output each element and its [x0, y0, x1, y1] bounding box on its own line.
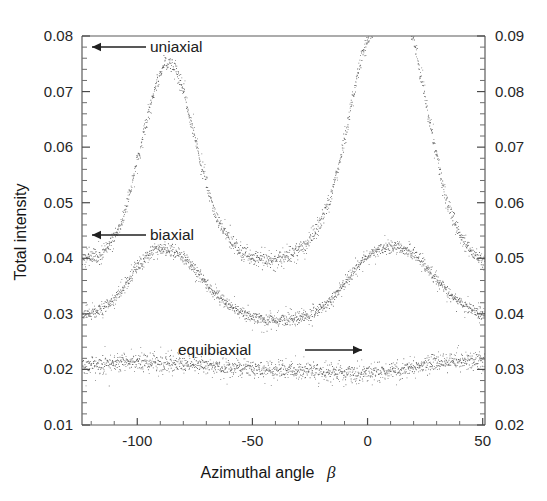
y-right-tick-label: 0.04	[495, 305, 524, 322]
x-tick-label: 0	[363, 432, 371, 449]
y-tick-label: 0.06	[44, 138, 73, 155]
figure-container: -100-500500.010.020.030.040.050.060.070.…	[0, 0, 547, 501]
annotation-label-uniaxial: uniaxial	[150, 38, 203, 55]
x-axis-title: Azimuthal angle β	[201, 463, 336, 482]
y-right-tick-label: 0.02	[495, 416, 524, 433]
y-tick-label: 0.01	[44, 416, 73, 433]
y-axis-title: Total intensity	[12, 184, 29, 281]
y-right-tick-label: 0.07	[495, 138, 524, 155]
x-axis-title-text: Azimuthal angle	[201, 464, 315, 481]
x-tick-label: 50	[474, 432, 491, 449]
scatter-plot: -100-500500.010.020.030.040.050.060.070.…	[0, 0, 547, 501]
y-tick-label: 0.08	[44, 27, 73, 44]
y-right-tick-label: 0.06	[495, 194, 524, 211]
y-right-tick-label: 0.03	[495, 360, 524, 377]
y-tick-label: 0.05	[44, 194, 73, 211]
y-tick-label: 0.04	[44, 249, 73, 266]
beta-symbol: β	[326, 463, 336, 482]
y-right-tick-label: 0.05	[495, 249, 524, 266]
annotation-label-equibiaxial: equibiaxial	[178, 341, 251, 358]
annotation-label-biaxial: biaxial	[150, 226, 194, 243]
y-tick-label: 0.02	[44, 360, 73, 377]
x-tick-label: -100	[122, 432, 152, 449]
y-tick-label: 0.07	[44, 83, 73, 100]
y-right-tick-label: 0.08	[495, 83, 524, 100]
x-tick-label: -50	[242, 432, 264, 449]
y-tick-label: 0.03	[44, 305, 73, 322]
y-right-tick-label: 0.09	[495, 27, 524, 44]
